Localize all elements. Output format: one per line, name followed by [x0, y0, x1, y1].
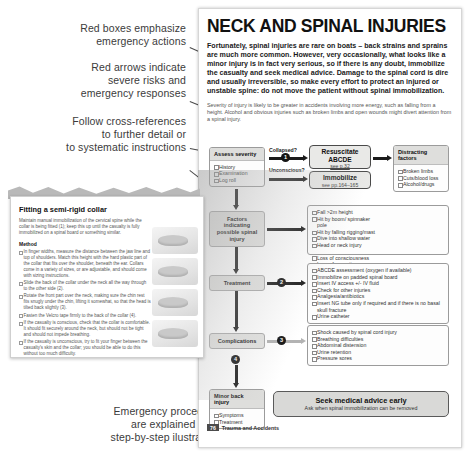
list-item: Head or neck injury: [312, 242, 378, 249]
inset-lead-text: Maintain manual immobilization of the ce…: [19, 218, 151, 236]
arrowhead: [233, 205, 239, 210]
list-item: Alcohol/drugs: [398, 181, 444, 188]
arrowhead: [301, 280, 306, 286]
page-intro-paragraph: Fortunately, spinal injuries are rare on…: [207, 42, 453, 95]
annotation-red-boxes: Red boxes emphasize emergency actions: [8, 22, 186, 48]
arrow-down-to-complications: [235, 291, 238, 327]
page-secondary-paragraph: Severity of injury is likely to be great…: [207, 102, 453, 123]
list-item: Symptoms: [214, 412, 260, 419]
list-item: Examination: [214, 170, 260, 177]
distracting-factors-list: Broken limbs Cuts/blood loss Alcohol/dru…: [394, 165, 448, 191]
step-number-3: 3: [277, 336, 286, 345]
list-item: Fasten the Velcro tape firmly to the bac…: [19, 313, 151, 319]
inset-title: Fitting a semi-rigid collar: [19, 205, 151, 214]
treatment-list: ABCDE assessment (oxygen if available) I…: [308, 264, 448, 323]
assess-severity-header: Assess severity: [210, 148, 264, 161]
resuscitate-box: Resuscitate ABCDE see p.32: [309, 145, 371, 169]
list-item: Broken limbs: [398, 168, 444, 175]
page-number: 76: [207, 424, 219, 431]
treatment-box: ABCDE assessment (oxygen if available) I…: [307, 263, 449, 324]
resuscitate-title: Resuscitate ABCDE: [310, 148, 370, 163]
list-item: If the casualty is unconscious, try to f…: [19, 339, 151, 357]
list-item: History: [214, 164, 260, 171]
complications-list: Shock caused by spinal cord injury Breat…: [308, 326, 448, 365]
assess-severity-list: History Examination Log roll: [210, 161, 264, 187]
list-item: Insert IV access +/- IV fluid: [312, 280, 444, 287]
arrowhead: [233, 383, 239, 388]
assess-severity-box: Assess severity History Examination Log …: [209, 147, 265, 187]
list-item: Cuts/blood loss: [398, 175, 444, 182]
arrowhead: [303, 176, 308, 182]
book-page: NECK AND SPINAL INJURIES Fortunately, sp…: [198, 8, 462, 448]
arrowhead: [301, 226, 306, 232]
arrow-down-to-factors: [235, 189, 238, 205]
arrow-down-to-treatment: [235, 247, 238, 269]
list-item: Breathing difficulties: [312, 336, 444, 343]
list-item: Pressure sores: [312, 355, 444, 362]
list-item: Analgesia/antibiotics: [312, 293, 444, 300]
annotation-red-arrows: Red arrows indicate severe risks and eme…: [8, 61, 186, 101]
list-item: Slide the back of the collar under the n…: [19, 280, 151, 292]
page-footer: 76Trauma and Accidents: [207, 424, 279, 431]
list-item: ABCDE assessment (oxygen if available): [312, 267, 444, 274]
arrowhead: [387, 155, 392, 161]
collar-inset-panel: Fitting a semi-rigid collar Maintain man…: [10, 196, 204, 358]
collar-illustration-2: [152, 258, 198, 285]
complications-stage-label: Complications: [209, 333, 265, 349]
annotation-emergency-procedures: Emergency procedures are explained using…: [8, 405, 224, 445]
minor-back-injury-header: Minor back injury: [210, 390, 264, 409]
list-item: Rotate the front part over the neck, mak…: [19, 293, 151, 311]
list-item: Insert NG tube only if required and if t…: [312, 300, 444, 313]
list-item: In finger widths, measure the distance b…: [19, 249, 151, 279]
list-item: Dive into shallow water: [312, 235, 378, 242]
annotation-cross-references: Follow cross-references to further detai…: [8, 115, 186, 155]
list-item: Immobilize on padded spinal board: [312, 274, 444, 281]
arrow-to-factors-list: [267, 228, 301, 231]
list-item: Hit by boom/ spinnaker pole: [312, 216, 378, 229]
collar-illustration-3: [152, 289, 198, 316]
distracting-factors-box: Distracting factors Broken limbs Cuts/bl…: [393, 145, 449, 192]
inset-method-label: Method: [19, 241, 151, 247]
arrowhead: [233, 327, 239, 332]
list-item: Hit by falling rigging/mast: [312, 229, 378, 236]
collar-illustrations: [152, 227, 198, 351]
step-number-1: 1: [281, 153, 290, 162]
factors-left-list: Fall >2m height Hit by boom/ spinnaker p…: [308, 206, 382, 252]
list-item: Loss of consciousness: [312, 255, 378, 262]
list-item: Abdominal distension: [312, 342, 444, 349]
arrow-to-immobilize: [269, 178, 303, 181]
list-item: Urine retention: [312, 349, 444, 356]
footer-section-label: Trauma and Accidents: [222, 425, 279, 431]
list-item: Log roll: [214, 177, 260, 184]
inset-method-list: In finger widths, measure the distance b…: [19, 249, 151, 357]
arrowhead: [233, 269, 239, 274]
treatment-stage-label: Treatment: [209, 275, 265, 291]
step-number-4: 4: [231, 355, 240, 364]
list-item: Check for other injuries: [312, 287, 444, 294]
screenshot-stage: Red boxes emphasize emergency actions Re…: [0, 0, 467, 461]
immobilize-box: Immobilize see pp.164–165: [309, 171, 371, 189]
arrow-to-distracting: [373, 157, 387, 160]
spinal-injury-factors-box: Fall >2m height Hit by boom/ spinnaker p…: [307, 205, 449, 255]
complications-box: Shock caused by spinal cord injury Breat…: [307, 325, 449, 366]
list-item: Fall >2m height: [312, 209, 378, 216]
step-number-2: 2: [277, 278, 286, 287]
banner-title: Seek medical advice early: [274, 396, 448, 405]
arrowhead: [301, 338, 306, 344]
question-unconscious: Unconscious?: [269, 167, 305, 173]
banner-subtitle: Ask when spinal immobilization can be re…: [274, 405, 448, 412]
list-item: Shock caused by spinal cord injury: [312, 329, 444, 336]
list-item: Urine catheter: [312, 313, 444, 320]
collar-illustration-4: [152, 320, 198, 347]
distracting-factors-header: Distracting factors: [394, 146, 448, 165]
seek-medical-advice-banner: Seek medical advice early Ask when spina…: [273, 391, 449, 417]
factors-stage-label: Factors indicating possible spinal injur…: [209, 211, 265, 247]
arrow-down-to-minor: [235, 365, 238, 383]
list-item: If the casualty is conscious, check that…: [19, 320, 151, 338]
immobilize-reference: see pp.164–165: [310, 182, 370, 188]
page-title: NECK AND SPINAL INJURIES: [207, 17, 453, 36]
resuscitate-reference: see p.32: [310, 163, 370, 169]
flowchart: Assess severity History Examination Log …: [207, 145, 453, 441]
collar-illustration-1: [152, 227, 198, 254]
arrowhead: [303, 155, 308, 161]
